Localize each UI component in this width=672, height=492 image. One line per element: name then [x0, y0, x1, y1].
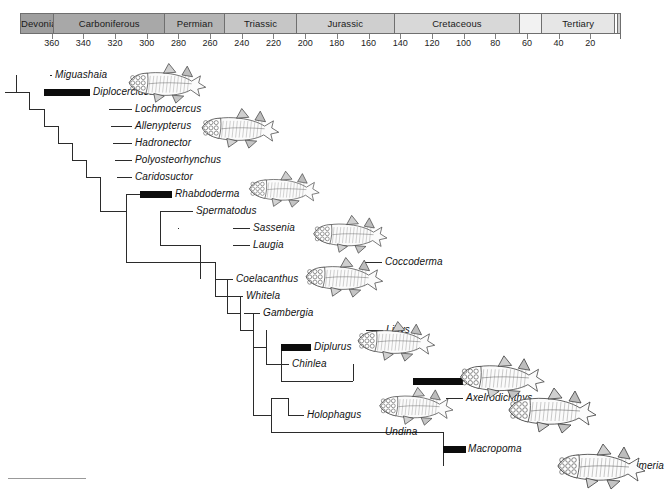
stratigraphic-range-bar-mawsonia	[413, 378, 463, 385]
taxon-label-undina[interactable]: Undina	[385, 427, 417, 437]
node-stem-n11	[160, 245, 200, 246]
terminal-branch-libys	[366, 330, 383, 331]
taxon-label-rhabdoderma[interactable]: Rhabdoderma	[175, 189, 239, 199]
node-stem-n18	[281, 381, 353, 382]
taxon-label-chinlea[interactable]: Chinlea	[292, 359, 327, 369]
node-stem-n16	[253, 347, 266, 348]
stratigraphic-range-bar-macropoma	[443, 446, 466, 453]
node-stem-n6	[72, 160, 86, 161]
node-vertical-root	[16, 75, 17, 92]
node-stem-n4	[44, 126, 58, 127]
node-vertical-n18	[353, 364, 354, 381]
node-vertical-n19	[271, 398, 272, 432]
taxon-label-whitela[interactable]: Whitela	[246, 291, 280, 301]
node-vertical-n10	[178, 228, 179, 229]
node-stem-n14	[227, 313, 240, 314]
node-vertical-n5	[72, 143, 73, 160]
taxon-label-laugia[interactable]: Laugia	[253, 240, 284, 250]
taxon-label-miguashaia[interactable]: Miguashaia	[55, 70, 107, 80]
node-vertical-n2	[29, 92, 30, 109]
node-stem-n12	[126, 262, 215, 263]
figure-root: DevonianCarboniferousPermianTriassicJura…	[0, 0, 672, 492]
fish-illustration-allenypterus	[196, 104, 284, 150]
node-stem-n8	[100, 211, 126, 212]
node-stem-n3	[29, 109, 44, 110]
taxon-label-mawsonia[interactable]: Mawsonia	[466, 376, 512, 386]
terminal-branch-miguashaia	[50, 75, 52, 76]
taxon-label-coccoderma[interactable]: Coccoderma	[385, 257, 443, 267]
terminal-branch-chinlea	[274, 364, 289, 365]
taxon-label-diplocercides[interactable]: Diplocercides	[93, 87, 154, 97]
node-vertical-n3	[44, 109, 45, 126]
taxon-label-sassenia[interactable]: Sassenia	[253, 223, 295, 233]
taxon-label-allenypterus[interactable]: Allenypterus	[135, 121, 191, 131]
node-stem-root	[5, 92, 16, 93]
stratigraphic-range-bar-rhabdoderma	[140, 191, 172, 198]
terminal-branch-spermatodus	[178, 211, 193, 212]
terminal-branch-latimeria	[603, 466, 619, 467]
terminal-branch-laugia	[233, 245, 250, 246]
taxon-label-spermatodus[interactable]: Spermatodus	[196, 206, 257, 216]
terminal-branch-axelrodichthys	[446, 398, 463, 399]
node-vertical-n9	[160, 211, 161, 245]
cladogram: MiguashaiaDiplocercidesLochmocercusAllen…	[0, 0, 672, 492]
terminal-branch-polyosteorhynchus	[115, 160, 132, 161]
taxon-label-latimeria[interactable]: Latimeria	[622, 461, 664, 471]
terminal-branch-hadronector	[113, 143, 132, 144]
terminal-branch-sassenia	[233, 228, 250, 229]
taxon-label-diplurus[interactable]: Diplurus	[314, 342, 351, 352]
fish-illustration-holophagus	[368, 384, 464, 426]
terminal-branch-coccoderma	[365, 262, 382, 263]
terminal-branch-holophagus	[288, 415, 304, 416]
fish-illustration-sassenia	[304, 212, 396, 254]
taxon-label-holophagus[interactable]: Holophagus	[307, 410, 361, 420]
taxon-label-hadronector[interactable]: Hadronector	[135, 138, 191, 148]
taxon-label-polyosteorhynchus[interactable]: Polyosteorhynchus	[135, 155, 221, 165]
node-vertical-n7	[100, 177, 101, 211]
terminal-branch-gambergia	[244, 313, 260, 314]
footer-divider	[8, 478, 86, 479]
taxon-label-coelacanthus[interactable]: Coelacanthus	[236, 274, 298, 284]
node-stem-n7	[86, 177, 100, 178]
node-vertical-n8	[126, 194, 127, 262]
taxon-label-libys[interactable]: Libys	[386, 325, 410, 335]
node-stem-n10	[160, 211, 178, 212]
node-stem-n20	[271, 398, 288, 399]
node-vertical-n20	[288, 398, 289, 415]
terminal-branch-allenypterus	[111, 126, 132, 127]
node-vertical-n4	[58, 126, 59, 143]
terminal-branch-lochmocercus	[109, 109, 132, 110]
stratigraphic-range-bar-diplocercides	[44, 89, 90, 96]
node-stem-n15	[240, 330, 253, 331]
terminal-branch-undina	[366, 432, 382, 433]
terminal-branch-caridosuctor	[117, 177, 132, 178]
taxon-label-axelrodichthys[interactable]: Axelrodichthys	[466, 393, 532, 403]
fish-illustration-miguashaia	[118, 60, 216, 104]
node-vertical-n16	[266, 330, 267, 364]
node-vertical-n6	[86, 160, 87, 177]
node-stem-n19	[253, 415, 271, 416]
taxon-label-lochmocercus[interactable]: Lochmocercus	[135, 104, 201, 114]
node-stem-n5	[58, 143, 72, 144]
fish-illustration-coelacanthus	[298, 254, 390, 298]
taxon-label-caridosuctor[interactable]: Caridosuctor	[135, 172, 193, 182]
taxon-label-macropoma[interactable]: Macropoma	[468, 444, 522, 454]
node-vertical-n14	[240, 296, 241, 330]
node-vertical-n15	[253, 313, 254, 415]
node-stem-n2	[16, 92, 29, 93]
fish-illustration-rhabdoderma	[236, 168, 332, 208]
node-stem-n13	[215, 296, 227, 297]
terminal-branch-coelacanthus	[215, 279, 233, 280]
stratigraphic-range-bar-diplurus	[281, 344, 311, 351]
terminal-branch-whitela	[227, 296, 243, 297]
taxon-label-gambergia[interactable]: Gambergia	[263, 308, 313, 318]
